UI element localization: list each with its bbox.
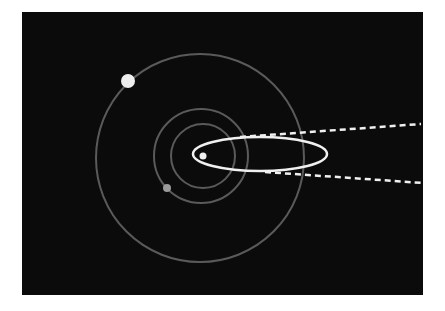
sun-icon xyxy=(200,153,207,160)
middle-planet-icon xyxy=(163,184,171,192)
outer-planet-icon xyxy=(121,74,135,88)
upper-trajectory xyxy=(240,124,421,137)
orbit-diagram xyxy=(0,0,445,311)
lower-trajectory xyxy=(265,172,423,183)
comet-orbit xyxy=(193,137,327,171)
